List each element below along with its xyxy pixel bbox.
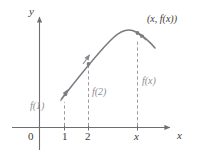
value-label-f2: f(2): [92, 87, 106, 97]
x-tick-label-x: x: [134, 131, 139, 142]
value-label-f1: f(1): [30, 101, 44, 111]
x-axis-label: x: [177, 130, 182, 141]
value-label-fx: f(x): [142, 76, 156, 86]
curve-point-2: [87, 62, 91, 66]
origin-label: 0: [28, 131, 34, 142]
y-axis-label: y: [29, 6, 34, 17]
curve-point-1: [64, 92, 68, 96]
point-annotation-label: (x, f(x)): [147, 14, 177, 24]
function-graph-figure: y x 0 1 2 x f(1) f(2) f(x) (x, f(x)): [0, 0, 198, 158]
x-tick-label-1: 1: [62, 131, 68, 142]
x-tick-label-2: 2: [85, 131, 91, 142]
function-curve: [62, 30, 156, 99]
curve-point-x: [136, 31, 140, 35]
